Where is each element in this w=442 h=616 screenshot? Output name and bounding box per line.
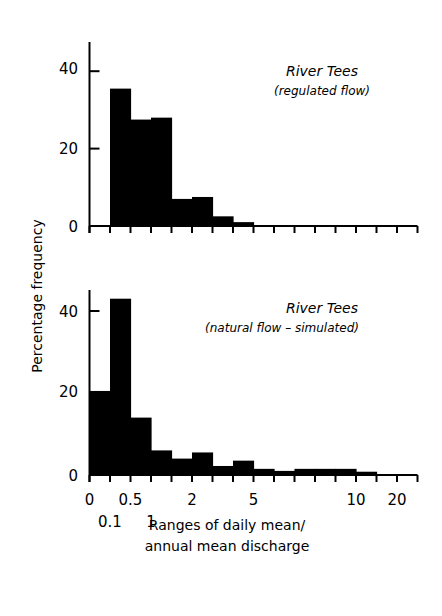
histogram-bar xyxy=(151,450,172,475)
top-histogram-panel: River Tees (regulated flow) 40 20 0 xyxy=(59,42,418,236)
x-tick-label: 2 xyxy=(187,491,197,509)
top-ytick-0: 0 xyxy=(68,218,78,236)
x-tick-label: 0 xyxy=(85,491,95,509)
chart-figure: River Tees (regulated flow) 40 20 0 Rive… xyxy=(0,0,442,616)
histogram-bar xyxy=(192,452,213,475)
x-tick-label: 0.1 xyxy=(98,513,122,531)
bottom-subtitle: (natural flow – simulated) xyxy=(205,321,359,335)
x-axis-title-line2: annual mean discharge xyxy=(145,538,310,554)
histogram-bar xyxy=(110,89,131,226)
top-ytick-20: 20 xyxy=(59,140,78,158)
top-subtitle: (regulated flow) xyxy=(274,84,370,98)
x-tick-label: 5 xyxy=(249,491,259,509)
histogram-bar xyxy=(110,299,131,475)
histogram-bar xyxy=(151,118,172,226)
histogram-bar xyxy=(192,197,213,226)
y-axis-title: Percentage frequency xyxy=(29,219,45,372)
histogram-bar xyxy=(213,466,234,475)
top-title: River Tees xyxy=(286,63,358,79)
histogram-bar xyxy=(213,216,234,226)
histogram-bar xyxy=(172,459,193,475)
x-axis-title-line1: Ranges of daily mean/ xyxy=(149,517,306,533)
top-bars xyxy=(110,89,254,226)
histogram-bar xyxy=(131,120,152,226)
histogram-bar xyxy=(90,391,111,475)
x-tick-label: 0.5 xyxy=(119,491,143,509)
histogram-bar xyxy=(131,418,152,475)
top-ytick-40: 40 xyxy=(59,60,78,78)
histogram-bar xyxy=(233,461,254,475)
histogram-bar xyxy=(172,199,193,226)
x-tick-label: 10 xyxy=(346,491,365,509)
bottom-ytick-0: 0 xyxy=(68,467,78,485)
bottom-title: River Tees xyxy=(286,300,358,316)
bottom-ytick-20: 20 xyxy=(59,383,78,401)
x-tick-label: 20 xyxy=(387,491,406,509)
bottom-ytick-40: 40 xyxy=(59,303,78,321)
bottom-histogram-panel: River Tees (natural flow – simulated) 40… xyxy=(59,290,418,531)
